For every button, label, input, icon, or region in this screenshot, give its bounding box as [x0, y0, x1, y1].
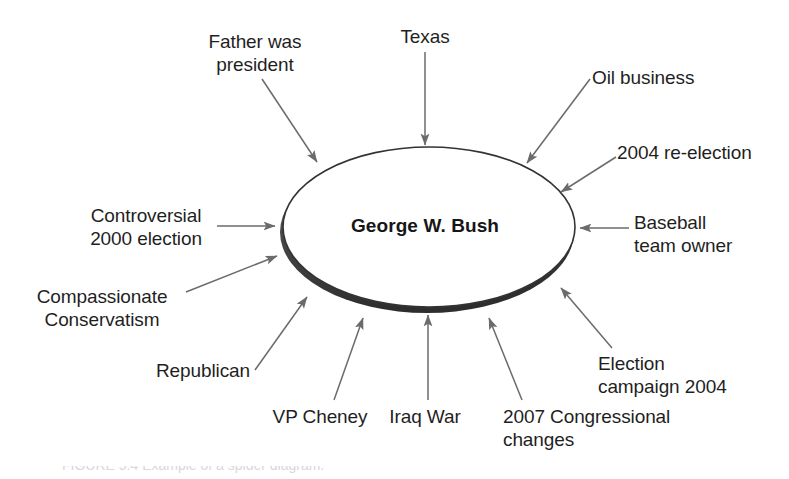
node-label-republican: Republican [110, 359, 250, 382]
arrow-2007-congressional-changes [489, 318, 522, 400]
node-label-iraq-war: Iraq War [380, 405, 470, 428]
figure-caption-strip: FIGURE 5.4 Example of a spider diagram. [0, 466, 789, 479]
arrow-election-campaign-2004 [561, 288, 612, 348]
node-label-election-campaign-2004: Election campaign 2004 [598, 352, 778, 398]
arrow-vp-cheney [334, 318, 363, 400]
center-node-label: George W. Bush [278, 215, 572, 237]
node-label-controversial-2000-election: Controversial 2000 election [78, 204, 214, 250]
arrow-oil-business [527, 79, 590, 163]
node-label-2004-re-election: 2004 re-election [617, 141, 787, 164]
node-label-baseball-team-owner: Baseball team owner [634, 211, 784, 257]
arrow-2004-re-election [561, 157, 616, 192]
node-label-texas: Texas [375, 25, 475, 48]
arrow-father-was-president [262, 79, 317, 162]
arrow-republican [255, 297, 307, 370]
diagram-canvas: George W. Bush Father was president Texa… [0, 0, 789, 479]
node-label-father-was-president: Father was president [182, 30, 328, 76]
arrow-compassionate-conservatism [186, 256, 277, 292]
node-label-2007-congressional-changes: 2007 Congressional changes [503, 405, 703, 451]
node-label-vp-cheney: VP Cheney [262, 405, 378, 428]
node-label-compassionate-conservatism: Compassionate Conservatism [22, 285, 182, 331]
node-label-oil-business: Oil business [592, 66, 752, 89]
figure-caption: FIGURE 5.4 Example of a spider diagram. [62, 466, 324, 473]
